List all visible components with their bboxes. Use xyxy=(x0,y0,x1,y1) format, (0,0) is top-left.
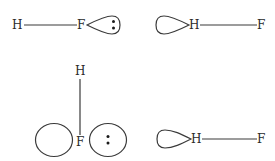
empty-p-lobe xyxy=(36,124,73,157)
empty-lobe xyxy=(157,130,191,148)
panel-top-left: H F xyxy=(12,16,120,34)
electron-dot xyxy=(112,20,115,23)
atom-h: H xyxy=(75,64,85,78)
electron-dot xyxy=(107,142,110,145)
atom-f: F xyxy=(76,135,84,149)
atom-f: F xyxy=(257,18,265,32)
empty-lobe xyxy=(156,16,189,34)
panel-bottom-left: H F xyxy=(36,64,127,157)
atom-h: H xyxy=(191,132,201,146)
panel-top-right: H F xyxy=(156,16,265,34)
electron-dot xyxy=(112,27,115,30)
panel-bottom-right: H F xyxy=(157,130,265,148)
hf-orbital-diagram: H F H F H F H F xyxy=(0,0,275,161)
atom-h: H xyxy=(189,18,199,32)
lone-pair-p-lobe xyxy=(90,124,127,157)
atom-f: F xyxy=(77,18,85,32)
lone-pair-lobe xyxy=(87,16,120,34)
electron-dot xyxy=(107,135,110,138)
atom-h: H xyxy=(12,18,22,32)
atom-f: F xyxy=(257,132,265,146)
